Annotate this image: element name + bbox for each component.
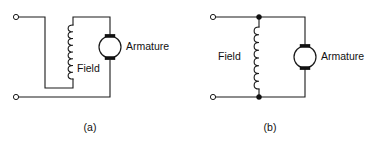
circuit-b-armature-brush-bottom-icon — [300, 66, 310, 69]
circuit-a-armature-icon — [99, 36, 121, 58]
circuit-a-wire-coil-to-armature — [73, 17, 110, 35]
circuit-a-caption: (a) — [84, 121, 97, 133]
circuit-b-armature-label: Armature — [321, 50, 364, 62]
circuit-b-terminal-top-icon — [210, 14, 215, 19]
circuit-b-field-label: Field — [218, 50, 241, 62]
circuit-diagram-svg: Field Armature (a) — [0, 0, 373, 151]
figure-root: Field Armature (a) — [0, 0, 373, 151]
circuit-b-group: Field Armature (b) — [210, 14, 364, 133]
circuit-a-group: Field Armature (a) — [13, 14, 169, 133]
circuit-a-terminal-top-icon — [13, 14, 18, 19]
circuit-a-field-label: Field — [77, 62, 100, 74]
circuit-b-armature-icon — [294, 46, 316, 68]
circuit-b-wire-top-rail — [216, 17, 305, 45]
circuit-b-junction-top-icon — [257, 15, 262, 20]
circuit-b-terminal-bottom-icon — [210, 94, 215, 99]
circuit-a-armature-brush-top-icon — [105, 34, 115, 37]
circuit-b-junction-bottom-icon — [257, 95, 262, 100]
circuit-a-terminal-bottom-icon — [13, 94, 18, 99]
circuit-a-armature-label: Armature — [126, 40, 169, 52]
circuit-b-wire-bottom-rail — [216, 69, 305, 97]
circuit-b-field-coil-icon — [254, 27, 259, 89]
circuit-a-field-coil-icon — [68, 25, 73, 79]
circuit-a-wire-top-lead — [19, 17, 73, 88]
circuit-b-caption: (b) — [264, 121, 277, 133]
circuit-b-armature-brush-top-icon — [300, 44, 310, 47]
